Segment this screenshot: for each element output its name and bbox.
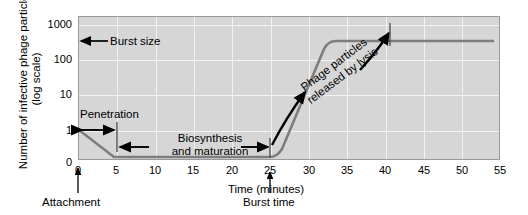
lysis-arrow-lower (272, 92, 305, 145)
lysis-arrow-upper (360, 33, 389, 70)
phage-growth-curve-chart: 1000 100 10 1 0 0 5 10 15 20 25 30 35 40… (0, 0, 528, 215)
annotation-arrows (0, 0, 528, 215)
